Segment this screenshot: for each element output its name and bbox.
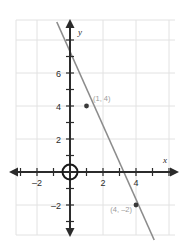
data-point-label: (1, 4) <box>93 94 111 103</box>
data-point-marker <box>134 203 139 208</box>
graph-background <box>0 0 188 245</box>
data-point-marker <box>84 104 89 109</box>
y-tick-label: 2 <box>56 135 61 145</box>
x-tick-label: –2 <box>32 178 42 188</box>
y-tick-label: 4 <box>56 102 61 112</box>
x-tick-label: 4 <box>133 178 138 188</box>
coordinate-graph: –2 2 4 –2 2 4 6 y x (1, 4) (4, –2) <box>0 0 188 245</box>
y-axis-label: y <box>77 27 82 37</box>
data-point-label: (4, –2) <box>110 205 132 214</box>
y-tick-label: 6 <box>56 69 61 79</box>
y-tick-label: –2 <box>51 201 61 211</box>
x-axis-label: x <box>162 155 167 165</box>
graph-canvas: –2 2 4 –2 2 4 6 y x (1, 4) (4, –2) <box>0 0 188 245</box>
x-tick-label: 2 <box>100 178 105 188</box>
